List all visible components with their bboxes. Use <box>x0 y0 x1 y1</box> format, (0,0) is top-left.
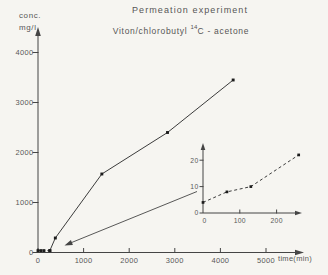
subtitle-chemical: C - acetone <box>198 26 250 36</box>
main-y-tick-label: 0 <box>29 248 33 257</box>
inset-data-point <box>249 185 252 188</box>
data-point <box>48 249 51 252</box>
main-x-tick-label: 5000 <box>257 256 275 265</box>
main-x-tick-label: 3000 <box>166 256 184 265</box>
data-point <box>100 173 103 176</box>
y-axis-label-line1: conc. <box>19 11 41 20</box>
main-x-tick-label: 4000 <box>211 256 229 265</box>
inset-x-tick-label: 100 <box>234 217 246 224</box>
chart-title: Permeation experiment <box>110 5 270 15</box>
inset-y-tick-label: 0 <box>194 209 198 216</box>
subtitle-material: Viton/chlorobutyl <box>113 26 191 36</box>
inset-data-point <box>297 154 300 157</box>
inset-y-tick-label: 20 <box>190 157 198 164</box>
data-point <box>37 249 40 252</box>
main-y-tick-label: 3000 <box>16 98 34 107</box>
main-y-tick-label: 4000 <box>16 48 34 57</box>
data-point <box>54 237 57 240</box>
inset-y-tick-label: 10 <box>190 183 198 190</box>
inset-data-point <box>226 191 229 194</box>
main-x-tick-label: 2000 <box>120 256 138 265</box>
data-point <box>166 131 169 134</box>
x-axis-label: time(min) <box>278 254 312 263</box>
chart-canvas: 0100020003000400001000200030004000500001… <box>0 0 328 275</box>
inset-series-line <box>203 155 299 203</box>
data-point <box>232 79 235 82</box>
permeation-experiment-figure: 0100020003000400001000200030004000500001… <box>0 0 328 275</box>
chart-subtitle: Viton/chlorobutyl 14C - acetone <box>94 25 268 36</box>
data-point <box>40 249 43 252</box>
data-point <box>42 249 45 252</box>
inset-x-tick-label: 200 <box>270 217 282 224</box>
inset-x-tick-label: 0 <box>202 217 206 224</box>
main-x-tick-label: 0 <box>36 256 40 265</box>
zoom-callout-arrow-line <box>67 192 197 245</box>
main-y-tick-label: 1000 <box>16 198 34 207</box>
subtitle-isotope-superscript: 14 <box>190 24 197 30</box>
inset-x-axis-arrow <box>295 211 302 216</box>
main-x-tick-label: 1000 <box>75 256 93 265</box>
main-series-line <box>50 80 233 251</box>
inset-y-axis-arrow <box>201 143 206 150</box>
main-y-tick-label: 2000 <box>16 148 34 157</box>
zoom-callout-arrow-head <box>65 240 73 245</box>
inset-data-point <box>202 201 205 204</box>
y-axis-label-line2: mg/l <box>19 23 37 32</box>
